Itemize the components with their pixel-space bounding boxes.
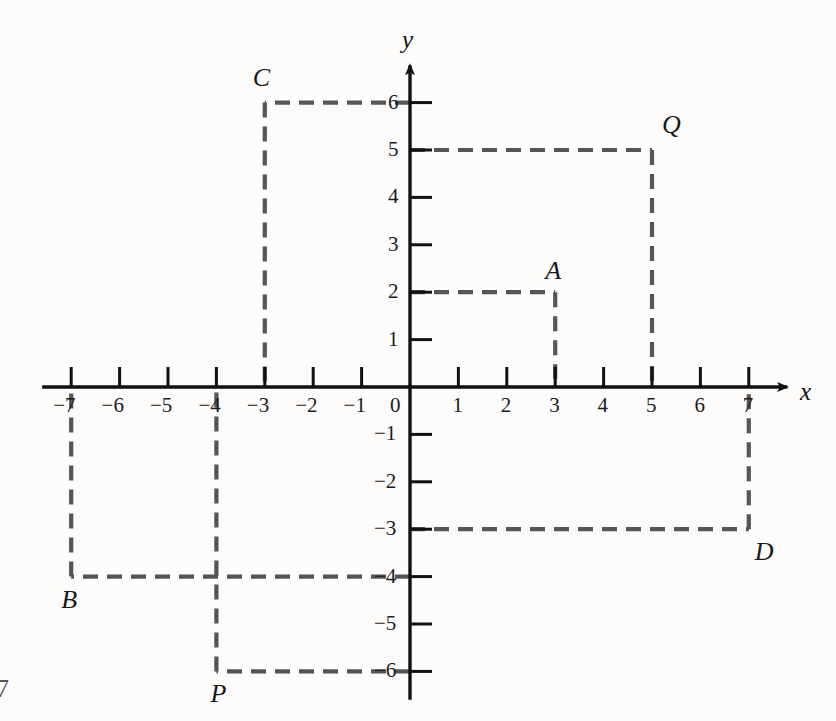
point-label-q: Q bbox=[662, 112, 681, 138]
y-tick-label--1: −1 bbox=[374, 423, 396, 444]
y-tick-label-1: 1 bbox=[388, 329, 399, 350]
y-tick-label--5: −5 bbox=[374, 613, 396, 634]
x-tick-label-6: 6 bbox=[694, 395, 705, 416]
x-tick-label--4: −4 bbox=[198, 395, 220, 416]
x-tick-label-1: 1 bbox=[452, 395, 463, 416]
point-label-a: A bbox=[545, 258, 561, 284]
x-tick-label--5: −5 bbox=[150, 395, 172, 416]
x-tick-label-3: 3 bbox=[549, 395, 560, 416]
y-tick-label--3: −3 bbox=[374, 518, 396, 539]
origin-tick-label: 0 bbox=[390, 395, 401, 416]
x-tick-label-5: 5 bbox=[646, 395, 657, 416]
point-label-p: P bbox=[210, 681, 226, 707]
y-axis-label: y bbox=[402, 27, 413, 52]
x-tick-label--2: −2 bbox=[295, 395, 317, 416]
y-tick-label-2: 2 bbox=[388, 281, 399, 302]
y-tick-label-6: 6 bbox=[388, 92, 399, 113]
page-number-artifact: 7 bbox=[0, 676, 9, 702]
point-label-d: D bbox=[755, 539, 774, 565]
x-tick-label--6: −6 bbox=[102, 395, 124, 416]
x-tick-label-2: 2 bbox=[501, 395, 512, 416]
x-tick-label--7: −7 bbox=[53, 395, 75, 416]
x-tick-label--3: −3 bbox=[247, 395, 269, 416]
y-tick-label-5: 5 bbox=[388, 139, 399, 160]
y-tick-label-4: 4 bbox=[388, 186, 399, 207]
y-tick-label--2: −2 bbox=[374, 471, 396, 492]
point-label-b: B bbox=[61, 587, 77, 613]
x-tick-label-4: 4 bbox=[598, 395, 609, 416]
coordinate-plot-svg bbox=[0, 0, 836, 721]
axes-layer bbox=[42, 65, 787, 700]
point-label-c: C bbox=[253, 65, 270, 91]
x-tick-label--1: −1 bbox=[344, 395, 366, 416]
y-tick-label-3: 3 bbox=[388, 234, 399, 255]
coordinate-plane-figure: −7−6−5−4−3−2−11234567654321−1−2−3−4−5−6A… bbox=[0, 0, 836, 721]
y-tick-label--6: −6 bbox=[374, 660, 396, 681]
x-axis-label: x bbox=[800, 379, 811, 404]
x-tick-label-7: 7 bbox=[743, 395, 754, 416]
y-tick-label--4: −4 bbox=[374, 566, 396, 587]
